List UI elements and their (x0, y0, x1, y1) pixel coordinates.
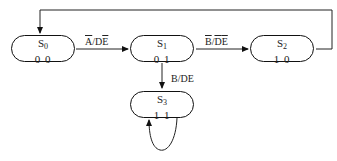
state-s1: S1 0 1 (130, 35, 194, 62)
state-s2-code: 1 0 (251, 53, 313, 65)
state-s1-code: 0 1 (131, 53, 193, 65)
state-s3-code: 1 1 (131, 109, 193, 121)
label-s0-s1: A/DE (85, 36, 108, 47)
edge-s3-self (149, 118, 177, 150)
state-s3: S3 1 1 (130, 91, 194, 118)
state-s3-name: S3 (131, 93, 193, 109)
state-s2: S2 1 0 (250, 35, 314, 62)
state-s0: S0 0 0 (11, 35, 75, 62)
state-s2-name: S2 (251, 37, 313, 53)
state-s1-name: S1 (131, 37, 193, 53)
state-s0-code: 0 0 (12, 53, 74, 65)
state-s0-name: S0 (12, 37, 74, 53)
diagram-edges (0, 0, 337, 161)
label-s1-s2: B/DE (205, 36, 228, 47)
label-s1-s3: B/DE (171, 73, 194, 84)
